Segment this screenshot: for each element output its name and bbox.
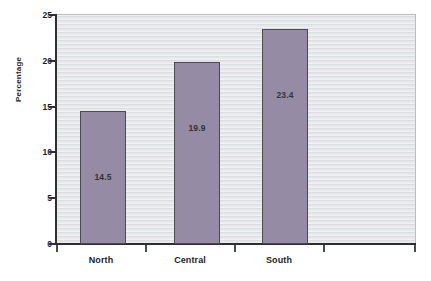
bar-north: 14.5 <box>80 111 126 244</box>
y-axis-title: Percentage <box>14 88 23 102</box>
x-axis-label-central: Central <box>149 255 231 265</box>
x-tick-mark <box>234 245 236 252</box>
y-axis-line <box>55 14 57 245</box>
bar-value-label: 19.9 <box>175 123 219 133</box>
bar-south: 23.4 <box>262 29 308 244</box>
x-tick-mark <box>323 245 325 252</box>
x-axis-label-south: South <box>238 255 320 265</box>
x-tick-mark <box>414 245 416 252</box>
x-axis-label-north: North <box>60 255 142 265</box>
bar-value-label: 23.4 <box>263 90 307 100</box>
bar-central: 19.9 <box>174 62 220 244</box>
x-tick-mark <box>56 245 58 252</box>
y-axis-ticks: 25 20 15 10 5 0 <box>30 0 52 281</box>
bar-value-label: 14.5 <box>81 172 125 182</box>
bar-chart: Percentage 25 20 15 10 5 0 14.5 19.9 23.… <box>0 0 431 281</box>
plot-area: 14.5 19.9 23.4 <box>57 14 416 244</box>
x-tick-mark <box>145 245 147 252</box>
